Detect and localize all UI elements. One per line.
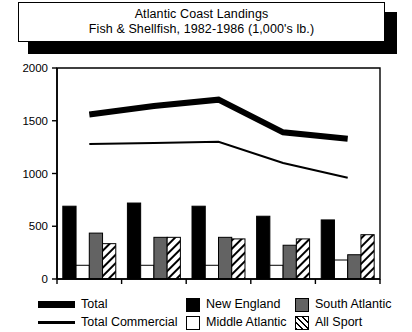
legend-item-total-commercial: Total Commercial <box>38 314 178 331</box>
legend-item-new-england: New England <box>186 296 280 313</box>
new-england-swatch-icon <box>186 298 200 312</box>
bar-middle-atlantic-1986 <box>334 260 347 279</box>
legend-label-south-atlantic: South Atlantic <box>315 298 391 311</box>
chart-plot-area: 0500100015002000 19821983198419851986 <box>0 55 412 287</box>
chart-legend: Total Total Commercial New England Middl… <box>0 296 412 332</box>
bar-all-sport-1985 <box>296 239 309 279</box>
legend-label-all-sport: All Sport <box>315 316 362 329</box>
svg-text:2000: 2000 <box>22 62 48 74</box>
bar-middle-atlantic-1983 <box>141 265 154 279</box>
bar-south-atlantic-1985 <box>283 245 296 279</box>
chart-title-line-2: Fish & Shellfish, 1982-1986 (1,000's lb.… <box>89 22 314 37</box>
all-sport-swatch-icon <box>295 316 309 330</box>
bar-new-england-1982 <box>63 206 76 279</box>
chart-title-block: Atlantic Coast Landings Fish & Shellfish… <box>18 2 387 44</box>
bar-new-england-1985 <box>257 216 270 279</box>
bar-middle-atlantic-1985 <box>270 265 283 279</box>
legend-label-total: Total <box>81 298 107 311</box>
bar-all-sport-1986 <box>361 235 374 279</box>
bar-new-england-1986 <box>321 220 334 279</box>
line-total <box>89 100 347 139</box>
bar-all-sport-1984 <box>232 239 245 279</box>
south-atlantic-swatch-icon <box>295 298 309 312</box>
legend-item-middle-atlantic: Middle Atlantic <box>186 314 287 331</box>
bar-series-layer <box>63 203 374 279</box>
chart-title-box: Atlantic Coast Landings Fish & Shellfish… <box>18 2 385 42</box>
legend-item-south-atlantic: South Atlantic <box>295 296 391 313</box>
bar-south-atlantic-1983 <box>154 237 167 279</box>
svg-text:1000: 1000 <box>22 168 48 180</box>
bar-south-atlantic-1984 <box>219 237 232 279</box>
legend-item-total: Total <box>38 296 107 313</box>
legend-label-new-england: New England <box>206 298 280 311</box>
bar-new-england-1984 <box>192 206 205 279</box>
total-line-swatch-icon <box>38 301 75 308</box>
bar-south-atlantic-1986 <box>348 255 361 279</box>
line-total-commercial <box>89 142 347 178</box>
line-series-layer <box>89 100 347 178</box>
bar-all-sport-1983 <box>167 237 180 279</box>
bar-middle-atlantic-1982 <box>76 265 89 279</box>
svg-text:500: 500 <box>29 220 48 232</box>
bar-all-sport-1982 <box>103 244 116 279</box>
total-commercial-line-swatch-icon <box>38 321 75 324</box>
legend-item-all-sport: All Sport <box>295 314 362 331</box>
legend-label-total-commercial: Total Commercial <box>81 316 178 329</box>
bar-middle-atlantic-1984 <box>205 265 218 279</box>
svg-text:1500: 1500 <box>22 115 48 127</box>
middle-atlantic-swatch-icon <box>186 316 200 330</box>
y-axis-tick-labels: 0500100015002000 <box>22 62 48 285</box>
legend-label-middle-atlantic: Middle Atlantic <box>206 316 287 329</box>
chart-title-line-1: Atlantic Coast Landings <box>135 7 269 22</box>
chart-canvas: 0500100015002000 19821983198419851986 <box>0 55 412 287</box>
svg-text:0: 0 <box>42 273 48 285</box>
bar-new-england-1983 <box>127 203 140 279</box>
bar-south-atlantic-1982 <box>89 233 102 279</box>
